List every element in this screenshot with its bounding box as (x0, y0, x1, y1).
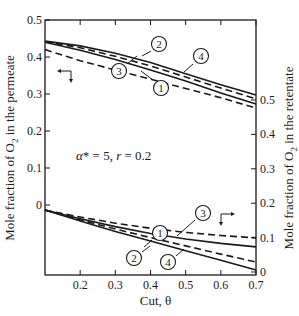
arrowhead-left-icon (57, 69, 61, 73)
x-tick-label: 0.3 (108, 278, 123, 292)
x-tick-label: 0.2 (73, 278, 88, 292)
arrow-left-axis-icon (60, 71, 71, 80)
curve-label-leader (142, 246, 150, 252)
curve-label-leader (141, 71, 153, 80)
y-right-tick-label: 0 (260, 265, 266, 279)
curve-label-4: 4 (165, 256, 171, 268)
arrowhead-down2-icon (219, 222, 223, 226)
curve-label-leader (142, 51, 151, 56)
y-left-tick-label: 0.2 (27, 124, 42, 138)
y-right-tick-label: 0.1 (260, 231, 275, 245)
series-line-1-left (45, 50, 256, 109)
y-left-axis-label: Mole fraction of O2 in the permeate (2, 55, 20, 241)
curve-label-leader (184, 64, 193, 72)
y-left-tick-label: 0.1 (27, 161, 42, 175)
arrowhead-down-icon (69, 79, 73, 83)
x-tick-label: 0.6 (213, 278, 228, 292)
y-left-tick-label: 0.5 (27, 13, 42, 27)
x-axis-label: Cut, θ (140, 293, 172, 308)
chart: 0.20.30.40.50.60.70.50.40.30.20.100.50.4… (0, 0, 299, 316)
curve-label-1: 1 (158, 82, 164, 94)
curve-label-3: 3 (200, 207, 206, 219)
y-right-tick-label: 0.4 (260, 127, 275, 141)
curve-label-4: 4 (198, 50, 204, 62)
arrow-right-axis-icon (221, 214, 232, 223)
y-left-tick-label: 0.4 (27, 50, 42, 64)
x-tick-label: 0.5 (178, 278, 193, 292)
x-tick-label: 0.4 (143, 278, 158, 292)
curve-label-2: 2 (156, 38, 162, 50)
y-right-tick-label: 0.3 (260, 162, 275, 176)
y-right-tick-label: 0.5 (260, 93, 275, 107)
y-right-tick-label: 0.2 (260, 196, 275, 210)
series-line-2-right (45, 210, 256, 270)
curve-label-1: 1 (157, 227, 163, 239)
y-left-tick-label: 0.3 (27, 87, 42, 101)
y-left-tick-label: 0 (36, 198, 42, 212)
annotation-params: α* = 5, r = 0.2 (76, 148, 151, 163)
curve-label-2: 2 (131, 252, 137, 264)
arrowhead-right-icon (231, 212, 235, 216)
curve-label-leader (176, 249, 184, 256)
y-right-axis-label: Mole fraction of O2 in the retentate (281, 66, 299, 249)
curve-label-3: 3 (116, 65, 122, 77)
x-tick-label: 0.7 (249, 278, 264, 292)
